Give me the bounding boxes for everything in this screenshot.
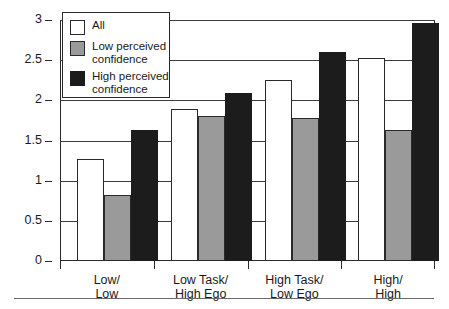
x-axis-tick: [341, 261, 342, 269]
bar: [412, 23, 439, 261]
bar: [171, 109, 198, 261]
y-axis-ticks: 00.511.522.53: [0, 20, 52, 261]
x-axis-tick-label: High/High: [333, 273, 443, 301]
y-axis-tick: [45, 181, 52, 182]
y-axis-tick: [45, 261, 52, 262]
y-axis-tick: [45, 100, 52, 101]
legend-item: Low perceived confidence: [70, 40, 169, 65]
y-axis-tick-label: 0: [12, 253, 42, 267]
legend-swatch-all: [70, 20, 85, 35]
y-axis-tick-label: 1.5: [12, 133, 42, 147]
x-axis-tick: [248, 261, 249, 269]
x-axis-tick: [60, 261, 61, 269]
chart-figure: Level of involvement 00.511.522.53 Low/L…: [0, 0, 449, 309]
bottom-divider: [14, 298, 434, 299]
bar: [292, 118, 319, 261]
chart-legend: AllLow perceived confidenceHigh perceive…: [62, 12, 170, 98]
y-axis-tick-label: 0.5: [12, 213, 42, 227]
y-axis-tick: [45, 141, 52, 142]
bar: [265, 80, 292, 261]
y-axis-tick-label: 1: [12, 173, 42, 187]
y-axis-tick: [45, 20, 52, 21]
y-axis-tick: [45, 221, 52, 222]
legend-item: High perceived confidence: [70, 70, 169, 95]
bar: [385, 130, 412, 261]
bar: [131, 130, 158, 261]
legend-item: All: [70, 19, 169, 35]
bar: [77, 159, 104, 261]
bar: [358, 58, 385, 261]
x-axis-tick: [154, 261, 155, 269]
bar: [319, 52, 346, 261]
legend-label: All: [92, 19, 105, 32]
x-axis-tick-label-line: High/: [333, 273, 443, 287]
legend-label: High perceived confidence: [92, 70, 169, 95]
bar: [198, 116, 225, 261]
y-axis-tick: [45, 60, 52, 61]
legend-label: Low perceived confidence: [92, 40, 166, 65]
legend-swatch-high: [70, 71, 85, 86]
y-axis-tick-label: 3: [12, 12, 42, 26]
bar: [104, 195, 131, 261]
x-axis-tick: [434, 261, 435, 269]
bar: [225, 93, 252, 261]
legend-swatch-low: [70, 41, 85, 56]
y-axis-tick-label: 2: [12, 92, 42, 106]
y-axis-tick-label: 2.5: [12, 52, 42, 66]
x-axis: Low/LowLow Task/High EgoHigh Task/Low Eg…: [60, 261, 435, 307]
